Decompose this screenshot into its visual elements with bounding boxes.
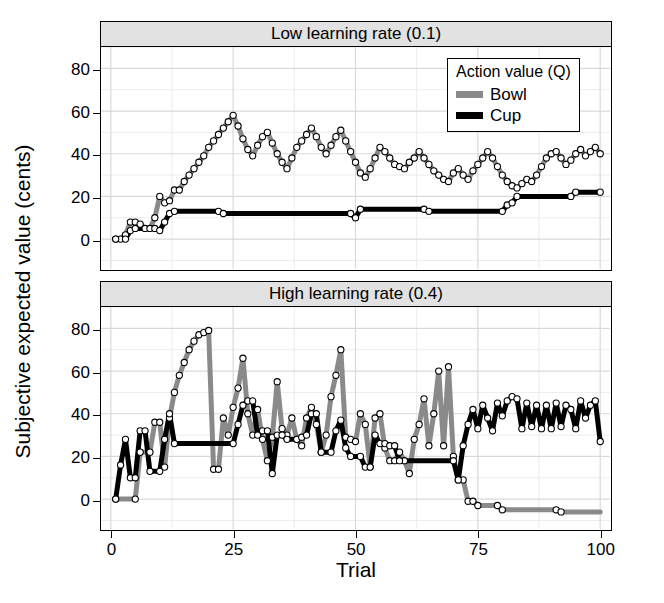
- y-tick-mark: [93, 113, 100, 114]
- y-tick-mark: [93, 330, 100, 331]
- x-tick-label: 100: [579, 540, 623, 560]
- y-tick-mark: [93, 70, 100, 71]
- x-tick-mark: [111, 531, 112, 538]
- y-tick-label: 40: [52, 145, 90, 165]
- legend-label-cup: Cup: [490, 106, 521, 126]
- legend-item-bowl[interactable]: Bowl: [456, 84, 571, 105]
- y-tick-mark: [93, 241, 100, 242]
- y-tick-label: 60: [52, 363, 90, 383]
- y-tick-label: 60: [52, 103, 90, 123]
- x-axis-title: Trial: [100, 558, 612, 582]
- y-tick-mark: [93, 373, 100, 374]
- legend-label-bowl: Bowl: [490, 85, 527, 105]
- x-tick-label: 0: [89, 540, 133, 560]
- y-tick-mark: [93, 501, 100, 502]
- legend: Action value (Q) Bowl Cup: [447, 58, 580, 132]
- y-axis-title: Subjective expected value (cents): [0, 0, 46, 603]
- y-tick-label: 80: [52, 60, 90, 80]
- panel-title-strip-bottom: High learning rate (0.4): [100, 281, 612, 307]
- panel-high-learning-rate: High learning rate (0.4): [100, 281, 612, 531]
- y-tick-label: 80: [52, 320, 90, 340]
- y-tick-mark: [93, 415, 100, 416]
- panel-title-strip-top: Low learning rate (0.1): [100, 21, 612, 47]
- legend-title: Action value (Q): [456, 63, 571, 81]
- legend-item-cup[interactable]: Cup: [456, 105, 571, 126]
- y-tick-mark: [93, 155, 100, 156]
- y-tick-label: 0: [52, 231, 90, 251]
- y-tick-label: 40: [52, 405, 90, 425]
- panel-title-bottom-label: High learning rate (0.4): [269, 284, 443, 304]
- x-tick-mark: [234, 531, 235, 538]
- figure-root: Subjective expected value (cents) Trial …: [0, 0, 664, 603]
- y-tick-label: 20: [52, 188, 90, 208]
- x-tick-mark: [478, 531, 479, 538]
- plot-area-bottom: [100, 307, 612, 531]
- panel-title-top-label: Low learning rate (0.1): [271, 24, 441, 44]
- y-tick-mark: [93, 198, 100, 199]
- legend-key-cup-icon: [456, 112, 483, 119]
- y-tick-label: 0: [52, 491, 90, 511]
- x-tick-label: 75: [456, 540, 500, 560]
- x-tick-mark: [601, 531, 602, 538]
- y-tick-mark: [93, 458, 100, 459]
- x-tick-label: 50: [334, 540, 378, 560]
- x-tick-mark: [356, 531, 357, 538]
- y-tick-label: 20: [52, 448, 90, 468]
- x-tick-label: 25: [212, 540, 256, 560]
- legend-key-bowl-icon: [456, 91, 483, 98]
